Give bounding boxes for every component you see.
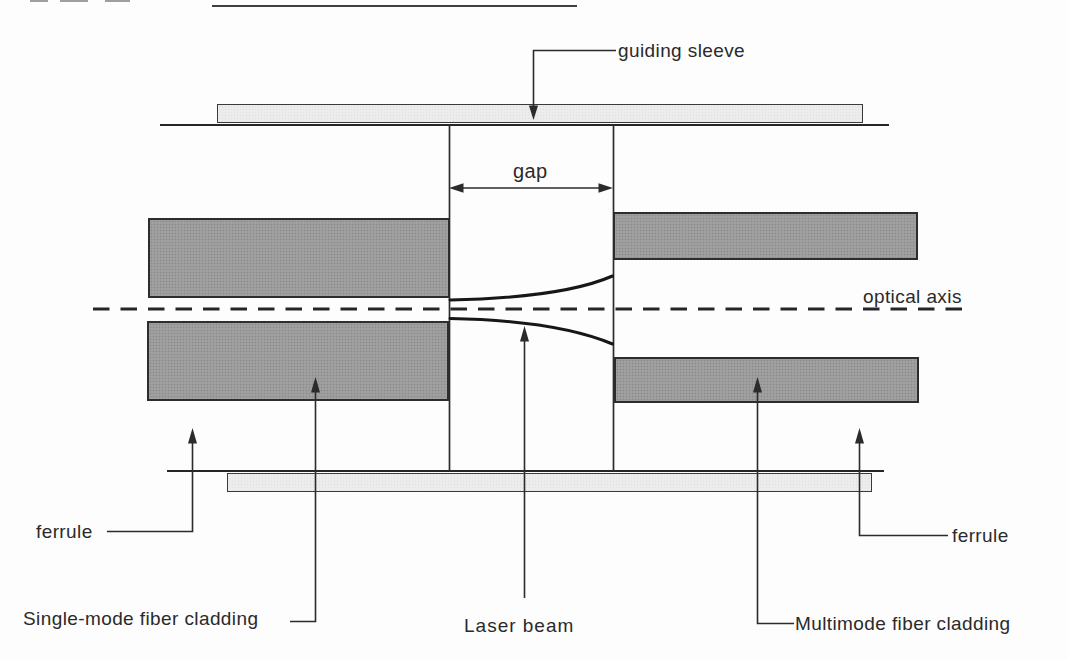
ferrule-left-label: ferrule: [36, 522, 93, 543]
multimode-cladding-leader-arrow: [753, 377, 794, 624]
diagram-linework: [0, 0, 1068, 660]
laser-beam-lower-curve: [450, 319, 613, 345]
laser-beam-label: Laser beam: [464, 616, 574, 637]
guiding-sleeve-leader-arrow: [529, 51, 616, 121]
multimode-cladding-label: Multimode fiber cladding: [795, 614, 1011, 635]
ferrule-left-leader-arrow: [107, 428, 197, 532]
laser-beam-upper-curve: [450, 276, 613, 300]
optical-axis-label: optical axis: [863, 287, 962, 308]
ferrule-right-label: ferrule: [952, 526, 1009, 547]
fiber-coupling-diagram: guiding sleeve gap optical axis ferrule …: [0, 0, 1068, 660]
gap-dimension-arrow: [449, 183, 613, 192]
gap-label: gap: [513, 160, 548, 182]
ferrule-right-leader-arrow: [855, 428, 948, 536]
laser-beam-leader-arrow: [520, 326, 529, 598]
single-mode-cladding-leader-arrow: [290, 377, 320, 622]
guiding-sleeve-label: guiding sleeve: [618, 41, 745, 62]
single-mode-cladding-label: Single-mode fiber cladding: [23, 609, 258, 630]
